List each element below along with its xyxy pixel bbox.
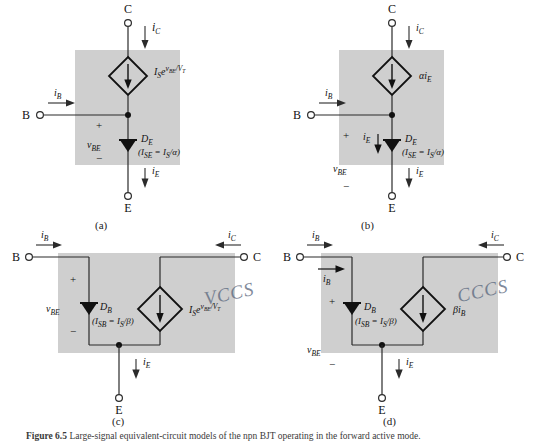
- base-label-b: B: [293, 108, 301, 122]
- base-label-d: B: [283, 250, 291, 264]
- minus-sign-d: −: [329, 358, 335, 370]
- ic-arrow-head-d: [478, 242, 487, 249]
- base-label-a: B: [22, 108, 30, 122]
- collector-label-b: C: [388, 2, 396, 16]
- minus-sign-c: −: [70, 325, 76, 337]
- ie-arrow-head-d: [395, 370, 402, 380]
- ic-arrow-head-c: [215, 242, 224, 249]
- ie-label-a: iE: [152, 165, 160, 179]
- ib-label-a: iB: [54, 87, 62, 101]
- plus-sign-b: +: [343, 129, 349, 141]
- base-terminal-d: [297, 254, 304, 261]
- figure-caption-label: Figure 6.5: [26, 431, 67, 441]
- ib-label-b: iB: [325, 87, 333, 101]
- ie-label-d: iE: [406, 356, 414, 370]
- ib-label-d: iB: [312, 229, 320, 243]
- ic-arrow-head-b: [406, 40, 413, 49]
- collector-terminal-c: [241, 254, 248, 261]
- plus-sign-c: +: [70, 273, 76, 285]
- emitter-terminal-b: [389, 193, 396, 200]
- ie-arrow-head-b: [406, 179, 413, 189]
- panel-a: C iC ISevBE/VT B iB + vBE: [0, 0, 271, 215]
- emitter-terminal-c: [116, 395, 123, 402]
- base-label-c: B: [12, 250, 20, 264]
- panel-label-c: (c): [112, 415, 124, 427]
- panel-d: B iB C iC iB + vBE − DB (ISB = IS/β): [271, 225, 542, 420]
- emitter-label-a: E: [124, 201, 131, 215]
- ib-arrow-head-d: [324, 242, 333, 249]
- base-node-dot-a: [125, 112, 131, 118]
- ic-label-c: iC: [228, 229, 237, 243]
- ib-label-c: iB: [41, 229, 49, 243]
- base-terminal-a: [37, 112, 44, 119]
- ie-label-c: iE: [143, 356, 151, 370]
- collector-terminal-b: [389, 20, 396, 27]
- ic-label-a: iC: [152, 20, 161, 36]
- ib-arrow-head-a: [66, 100, 75, 107]
- vbe-label-b: vBE: [333, 163, 347, 177]
- ic-label-b: iC: [416, 22, 425, 36]
- ic-label-d: iC: [491, 229, 500, 243]
- base-node-dot-b: [389, 112, 395, 118]
- figure-caption-text: Large-signal equivalent-circuit models o…: [69, 431, 420, 441]
- minus-sign-b: −: [343, 180, 349, 192]
- plus-sign-d: +: [329, 295, 335, 307]
- vbe-label-c: vBE: [46, 303, 60, 317]
- figure-canvas: C iC ISevBE/VT B iB + vBE: [0, 0, 542, 442]
- emitter-label-b: E: [388, 201, 395, 215]
- minus-sign-a: −: [96, 152, 102, 164]
- figure-caption: Figure 6.5 Large-signal equivalent-circu…: [26, 431, 526, 441]
- emitter-terminal-a: [125, 193, 132, 200]
- vbe-label-d: vBE: [307, 344, 321, 358]
- collector-label-a: C: [124, 2, 132, 16]
- ie-label-b: iE: [416, 165, 424, 179]
- base-terminal-c: [26, 254, 33, 261]
- base-terminal-b: [308, 112, 315, 119]
- panel-label-d: (d): [383, 415, 396, 427]
- panel-c: B iB C iC + vBE − DB (ISB = IS/β): [0, 225, 271, 420]
- ib-arrow-head-c: [53, 242, 62, 249]
- collector-terminal-d: [504, 254, 511, 261]
- emitter-terminal-d: [379, 395, 386, 402]
- ie-arrow-head-c: [132, 370, 139, 380]
- plus-sign-a: +: [96, 119, 102, 131]
- ie-arrow-head-a: [142, 179, 149, 189]
- collector-terminal-a: [125, 20, 132, 27]
- panel-b: C iC αiE B iB + vBE − iE DE: [271, 0, 542, 215]
- collector-label-c: C: [253, 250, 261, 264]
- collector-label-d: C: [516, 250, 524, 264]
- ic-arrow-head-a: [142, 40, 149, 49]
